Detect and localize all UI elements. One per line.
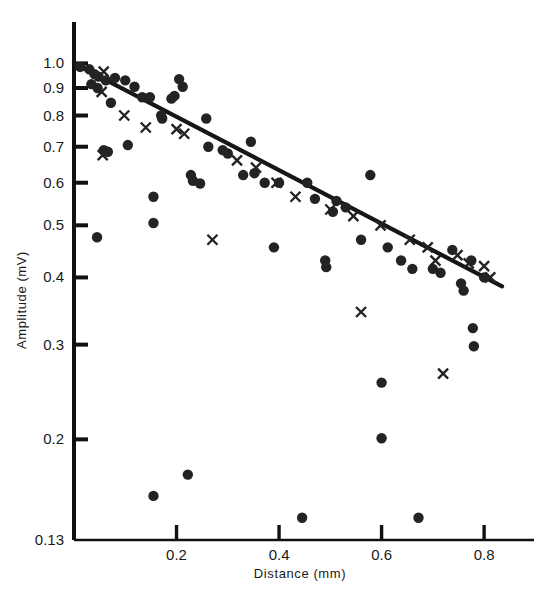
data-point-circle [269,242,279,252]
data-point-circle [148,192,158,202]
data-point-circle [383,242,393,252]
y-tick-label: 0.8 [43,107,64,124]
data-point-circle [183,469,193,479]
data-point-circle [223,148,233,158]
data-point-circle [260,178,270,188]
data-point-circle [321,262,331,272]
data-point-circle [195,178,205,188]
x-tick-label: 0.2 [166,546,187,563]
data-point-circle [177,82,187,92]
data-point-circle [365,170,375,180]
data-point-circle [302,178,312,188]
y-tick-label: 0.2 [43,430,64,447]
x-axis-title: Distance (mm) [254,566,346,581]
data-point-circle [92,232,102,242]
data-point-circle [110,73,120,83]
y-tick-label: 0.5 [43,216,64,233]
data-point-circle [101,75,111,85]
data-point-circle [169,91,179,101]
data-point-circle [297,513,307,523]
data-point-circle [246,137,256,147]
y-axis-title: Amplitude (mV) [14,251,29,349]
y-tick-label: 0.6 [43,174,64,191]
data-point-circle [407,264,417,274]
data-point-circle [157,113,167,123]
data-point-circle [331,196,341,206]
data-point-circle [310,194,320,204]
data-point-circle [469,341,479,351]
y-tick-label: 0.4 [43,268,64,285]
data-point-circle [129,82,139,92]
data-point-circle [413,513,423,523]
data-point-circle [201,113,211,123]
y-tick-label: 0.13 [35,531,64,548]
data-point-circle [120,75,130,85]
data-point-circle [148,491,158,501]
chart-canvas: 0.130.20.30.40.50.60.70.80.91.0 0.20.40.… [0,0,538,595]
data-point-circle [396,255,406,265]
data-point-circle [356,235,366,245]
data-point-circle [75,62,85,72]
data-point-circle [148,218,158,228]
x-tick-label: 0.4 [269,546,290,563]
data-point-circle [376,377,386,387]
data-point-circle [203,142,213,152]
data-point-circle [376,433,386,443]
data-point-circle [145,92,155,102]
y-tick-label: 0.7 [43,138,64,155]
y-tick-label: 0.3 [43,336,64,353]
y-tick-label: 0.9 [43,79,64,96]
data-point-circle [238,170,248,180]
data-point-circle [123,140,133,150]
data-point-circle [458,285,468,295]
x-tick-label: 0.6 [371,546,392,563]
data-point-circle [468,323,478,333]
x-tick-label: 0.8 [474,546,495,563]
data-point-circle [106,98,116,108]
data-point-circle [435,268,445,278]
y-tick-label: 1.0 [43,54,64,71]
scatter-plot-figure: 0.130.20.30.40.50.60.70.80.91.0 0.20.40.… [0,0,538,595]
